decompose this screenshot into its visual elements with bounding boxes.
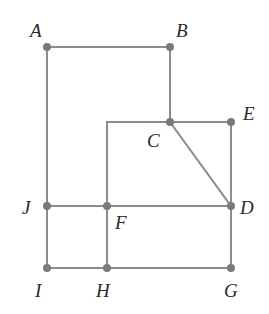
label-a: A <box>28 20 42 41</box>
point-j <box>43 202 51 210</box>
geometry-diagram: ABCEJFDIHG <box>0 0 269 314</box>
point-g <box>227 264 235 272</box>
label-c: C <box>147 130 160 151</box>
labels-group: ABCEJFDIHG <box>22 20 255 301</box>
label-g: G <box>224 280 238 301</box>
label-b: B <box>176 20 188 41</box>
point-a <box>43 43 51 51</box>
points-group <box>43 43 235 272</box>
label-d: D <box>239 197 254 218</box>
segments-group <box>47 47 231 268</box>
point-h <box>103 264 111 272</box>
label-e: E <box>242 103 255 124</box>
segment-c-d <box>170 122 231 206</box>
label-h: H <box>95 280 111 301</box>
label-j: J <box>22 197 32 218</box>
point-c <box>166 118 174 126</box>
point-d <box>227 202 235 210</box>
point-i <box>43 264 51 272</box>
label-i: I <box>34 280 43 301</box>
point-b <box>166 43 174 51</box>
point-f <box>103 202 111 210</box>
label-f: F <box>114 212 127 233</box>
point-e <box>227 118 235 126</box>
